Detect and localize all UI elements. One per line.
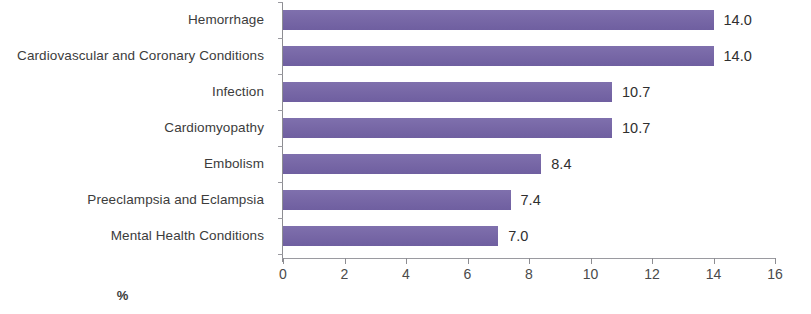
y-axis-tick bbox=[278, 182, 283, 183]
bar bbox=[283, 190, 511, 210]
bar-value-label: 14.0 bbox=[724, 10, 752, 30]
y-axis-tick bbox=[278, 2, 283, 3]
category-label: Hemorrhage bbox=[188, 10, 264, 30]
x-axis-tick bbox=[775, 258, 776, 264]
y-axis-tick bbox=[278, 38, 283, 39]
x-axis-tick bbox=[345, 258, 346, 264]
category-label: Cardiovascular and Coronary Conditions bbox=[17, 46, 264, 66]
category-label: Preeclampsia and Eclampsia bbox=[87, 190, 264, 210]
y-axis-tick bbox=[278, 74, 283, 75]
y-axis-tick bbox=[278, 254, 283, 255]
x-axis-tick-label: 0 bbox=[263, 266, 303, 282]
bar-value-label: 7.0 bbox=[508, 226, 528, 246]
x-axis-tick bbox=[652, 258, 653, 264]
bar bbox=[283, 46, 714, 66]
bar-value-label: 10.7 bbox=[622, 118, 650, 138]
x-axis-tick-label: 2 bbox=[325, 266, 365, 282]
y-axis-tick bbox=[278, 146, 283, 147]
bar bbox=[283, 226, 498, 246]
bar-chart: HemorrhageCardiovascular and Coronary Co… bbox=[0, 0, 811, 314]
x-axis-tick bbox=[468, 258, 469, 264]
bar bbox=[283, 154, 541, 174]
bar-value-label: 8.4 bbox=[551, 154, 571, 174]
plot-area: 024681012141614.014.010.710.78.47.47.0 bbox=[283, 6, 775, 258]
bar bbox=[283, 10, 714, 30]
bar-value-label: 10.7 bbox=[622, 82, 650, 102]
x-axis-tick-label: 4 bbox=[386, 266, 426, 282]
x-axis-tick bbox=[591, 258, 592, 264]
x-axis-tick-label: 14 bbox=[694, 266, 734, 282]
x-axis-tick-label: 12 bbox=[632, 266, 672, 282]
x-axis-tick bbox=[283, 258, 284, 264]
category-axis-labels: HemorrhageCardiovascular and Coronary Co… bbox=[0, 6, 272, 258]
category-label: Infection bbox=[212, 82, 264, 102]
bar bbox=[283, 82, 612, 102]
category-label: Mental Health Conditions bbox=[111, 226, 264, 246]
x-axis-tick bbox=[406, 258, 407, 264]
category-label: Embolism bbox=[204, 154, 264, 174]
bar-value-label: 14.0 bbox=[724, 46, 752, 66]
x-axis-tick-label: 6 bbox=[448, 266, 488, 282]
y-axis-tick bbox=[278, 218, 283, 219]
x-axis-tick-label: 16 bbox=[755, 266, 795, 282]
x-axis-tick-label: 10 bbox=[571, 266, 611, 282]
bar-value-label: 7.4 bbox=[521, 190, 541, 210]
bar bbox=[283, 118, 612, 138]
x-axis-title: % bbox=[0, 288, 811, 303]
x-axis-title-text: % bbox=[117, 288, 129, 303]
category-label: Cardiomyopathy bbox=[164, 118, 264, 138]
y-axis-tick bbox=[278, 110, 283, 111]
x-axis-tick-label: 8 bbox=[509, 266, 549, 282]
x-axis-tick bbox=[714, 258, 715, 264]
x-axis-tick bbox=[529, 258, 530, 264]
